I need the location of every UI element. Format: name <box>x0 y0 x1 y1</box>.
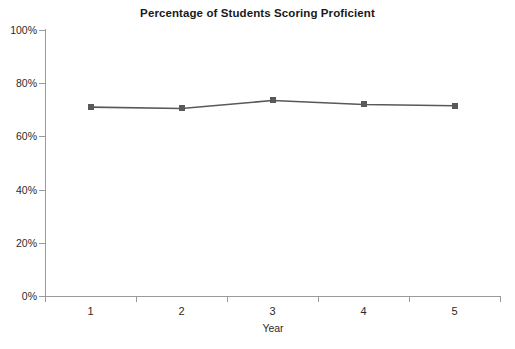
data-point-marker <box>179 105 185 111</box>
data-point-marker <box>270 97 276 103</box>
data-point-marker <box>88 104 94 110</box>
x-axis-title: Year <box>45 322 501 334</box>
chart-container: Percentage of Students Scoring Proficien… <box>0 0 515 349</box>
series-line <box>0 0 515 349</box>
data-point-marker <box>361 101 367 107</box>
data-point-marker <box>452 103 458 109</box>
